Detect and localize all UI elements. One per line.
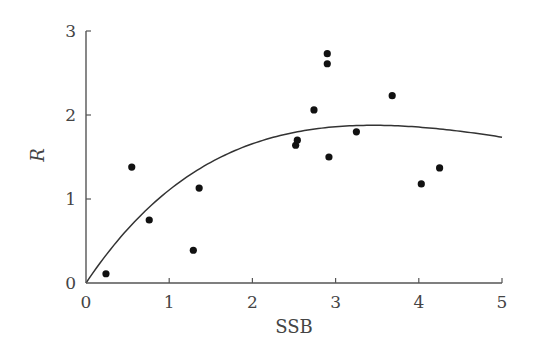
data-point xyxy=(190,247,197,254)
data-point xyxy=(324,50,331,57)
data-point xyxy=(146,216,153,223)
x-tick-label: 2 xyxy=(247,292,258,312)
data-point xyxy=(294,137,301,144)
y-tick-label: 0 xyxy=(65,273,76,293)
y-axis-label: R xyxy=(27,148,48,163)
data-point xyxy=(102,270,109,277)
data-point xyxy=(128,163,135,170)
x-tick-label: 0 xyxy=(81,292,92,312)
x-tick-label: 3 xyxy=(330,292,341,312)
data-point xyxy=(436,164,443,171)
y-tick-label: 2 xyxy=(65,105,76,125)
data-point xyxy=(418,180,425,187)
y-tick-label: 3 xyxy=(65,21,76,41)
data-point xyxy=(196,184,203,191)
data-point xyxy=(310,106,317,113)
data-point xyxy=(389,92,396,99)
data-point xyxy=(353,128,360,135)
y-tick-label: 1 xyxy=(65,189,76,209)
x-tick-label: 5 xyxy=(497,292,508,312)
x-axis-label: SSB xyxy=(275,316,313,337)
data-point xyxy=(324,60,331,67)
ricker-curve xyxy=(86,125,502,283)
x-tick-label: 1 xyxy=(164,292,175,312)
fitted-curve xyxy=(86,125,502,283)
x-tick-label: 4 xyxy=(413,292,424,312)
data-point xyxy=(325,153,332,160)
sr-scatter-chart: 0123450123 SSB R xyxy=(0,0,534,351)
data-points xyxy=(102,50,443,277)
